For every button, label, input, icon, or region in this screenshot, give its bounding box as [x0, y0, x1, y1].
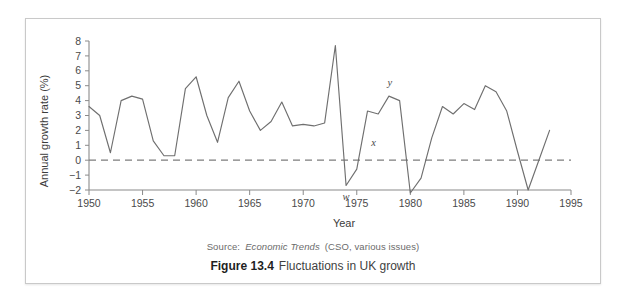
source-prefix: Source: — [207, 241, 240, 252]
figure-caption: Figure 13.4Fluctuations in UK growth — [26, 259, 600, 273]
x-tick-label: 1960 — [184, 197, 208, 209]
y-tick-label: 5 — [75, 79, 81, 91]
x-tick-label: 1955 — [131, 197, 155, 209]
x-axis-title: Year — [333, 217, 356, 229]
y-tick-label: 4 — [75, 94, 81, 106]
figure-title: Fluctuations in UK growth — [279, 259, 416, 273]
growth-rate-series-line — [89, 45, 550, 193]
figure-source: Source:Economic Trends(CSO, various issu… — [26, 241, 600, 252]
x-tick-label: 1985 — [452, 197, 476, 209]
annotation-x: x — [370, 137, 376, 148]
x-tick-label: 1950 — [77, 197, 101, 209]
growth-rate-line-chart: Annual growth rate (%) −2−1012345678 195… — [26, 19, 600, 234]
source-publication: Economic Trends — [245, 241, 320, 252]
x-tick-label: 1980 — [399, 197, 423, 209]
chart-figure: Annual growth rate (%) −2−1012345678 195… — [26, 19, 600, 283]
annotation-y: y — [387, 77, 393, 88]
y-tick-label: 1 — [75, 139, 81, 151]
y-tick-label: 2 — [75, 124, 81, 136]
y-tick-label: 6 — [75, 64, 81, 76]
y-tick-label: −1 — [69, 169, 81, 181]
y-axis-title: Annual growth rate (%) — [38, 75, 50, 188]
x-tick-label: 1965 — [238, 197, 262, 209]
x-tick-label: 1995 — [559, 197, 583, 209]
x-axis-ticks: 1950195519601965197019751980198519901995 — [77, 190, 583, 209]
y-tick-label: 8 — [75, 35, 81, 47]
figure-number: Figure 13.4 — [210, 259, 273, 273]
y-tick-label: 3 — [75, 109, 81, 121]
y-tick-label: 0 — [75, 154, 81, 166]
source-suffix: (CSO, various issues) — [325, 241, 419, 252]
y-axis-ticks: −2−1012345678 — [69, 35, 89, 196]
x-tick-label: 1970 — [292, 197, 316, 209]
y-tick-label: 7 — [75, 50, 81, 62]
figure-card: Annual growth rate (%) −2−1012345678 195… — [25, 18, 601, 284]
chart-annotations: wxy — [343, 77, 393, 201]
y-tick-label: −2 — [69, 184, 81, 196]
annotation-w: w — [343, 191, 350, 202]
x-tick-label: 1990 — [506, 197, 530, 209]
